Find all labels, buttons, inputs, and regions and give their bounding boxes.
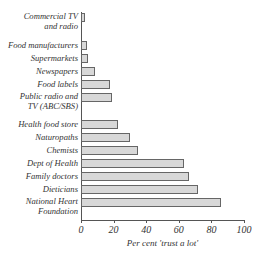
- bar: [81, 159, 184, 168]
- category-label: Dept of Health: [27, 159, 78, 169]
- x-tick-label: 0: [66, 224, 96, 235]
- x-tick-label: 80: [196, 224, 226, 235]
- bar: [81, 93, 112, 102]
- category-label: Family doctors: [26, 172, 78, 182]
- bar-chart: Commercial TVand radioFood manufacturers…: [0, 0, 262, 262]
- x-axis-line: [81, 220, 244, 221]
- category-label: Commercial TVand radio: [24, 12, 78, 31]
- x-tick-label: 60: [164, 224, 194, 235]
- x-axis-title: Per cent 'trust a lot': [81, 238, 244, 248]
- bar: [81, 172, 189, 181]
- x-tick: [114, 220, 115, 223]
- bar: [81, 185, 198, 194]
- x-tick: [211, 220, 212, 223]
- category-label: National HeartFoundation: [26, 197, 78, 216]
- x-tick-label: 100: [229, 224, 259, 235]
- bar: [81, 13, 85, 22]
- x-tick: [81, 220, 82, 223]
- category-label: Supermarkets: [31, 54, 78, 64]
- bar: [81, 80, 110, 89]
- x-tick-label: 20: [99, 224, 129, 235]
- category-label: Newspapers: [36, 67, 78, 77]
- x-tick: [244, 220, 245, 223]
- category-label: Food manufacturers: [8, 41, 78, 51]
- bar: [81, 54, 88, 63]
- bar: [81, 120, 118, 129]
- bar: [81, 146, 138, 155]
- x-tick: [146, 220, 147, 223]
- bar: [81, 133, 130, 142]
- category-label: Health food store: [18, 120, 78, 130]
- category-label: Public radio andTV (ABC/SBS): [20, 92, 78, 111]
- category-label: Dieticians: [43, 185, 78, 195]
- bar: [81, 41, 87, 50]
- x-tick: [179, 220, 180, 223]
- x-tick-label: 40: [131, 224, 161, 235]
- category-label: Naturopaths: [35, 133, 78, 143]
- category-label: Food labels: [37, 80, 78, 90]
- category-label: Chemists: [46, 146, 78, 156]
- bar: [81, 67, 95, 76]
- bar: [81, 198, 221, 207]
